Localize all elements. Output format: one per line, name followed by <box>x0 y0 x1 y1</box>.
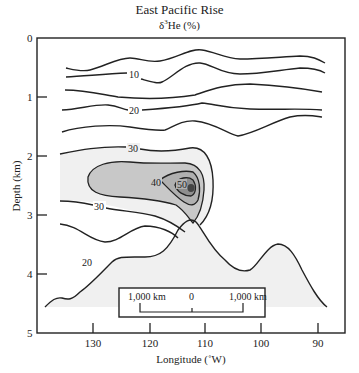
y-tick-2: 2 <box>27 150 33 162</box>
contour-line-top <box>66 50 325 71</box>
y-tick-1: 1 <box>27 91 33 103</box>
scale-left-label: 1,000 km <box>128 291 166 302</box>
contour-line-15 <box>65 84 322 98</box>
y-axis-label: Depth (km) <box>10 160 23 211</box>
x-tick-100: 100 <box>253 337 270 349</box>
contour-line-25 <box>62 115 322 136</box>
x-tick-130: 130 <box>85 337 102 349</box>
plume-core <box>188 184 195 192</box>
x-axis-label: Longitude (˚W) <box>156 353 226 366</box>
y-tick-4: 4 <box>27 268 33 280</box>
x-tick-90: 90 <box>313 337 325 349</box>
contour-label-20-upper: 20 <box>129 105 139 116</box>
contour-label-50: 50 <box>177 179 187 190</box>
scale-bar: 1,000 km 0 1,000 km <box>119 288 267 317</box>
contour-line-20-lower <box>60 224 178 242</box>
x-tick-120: 120 <box>142 337 159 349</box>
contour-label-30-lower: 30 <box>94 201 104 212</box>
x-tick-110: 110 <box>197 337 214 349</box>
y-tick-5: 5 <box>27 327 33 339</box>
contour-line-20-upper <box>62 103 322 110</box>
y-tick-3: 3 <box>27 209 33 221</box>
y-axis-ticks <box>37 97 47 274</box>
contour-plot: 10 20 30 30 40 50 20 1,000 km 0 1,000 km… <box>0 0 359 373</box>
contour-label-20-lower: 20 <box>82 257 92 268</box>
contour-label-40: 40 <box>151 177 161 188</box>
scale-right-label: 1,000 km <box>229 291 267 302</box>
contour-label-30-upper: 30 <box>128 143 138 154</box>
contour-line-10 <box>66 63 325 83</box>
scale-center-label: 0 <box>189 291 194 302</box>
contour-label-10: 10 <box>129 69 139 80</box>
x-axis-ticks <box>93 323 318 333</box>
y-tick-0: 0 <box>27 32 33 44</box>
